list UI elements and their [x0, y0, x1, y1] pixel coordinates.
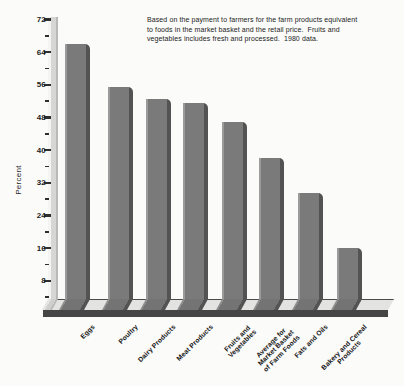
- y-tick-label: 64: [37, 48, 46, 57]
- y-minor-tick: [45, 166, 49, 168]
- x-category-label: Meat Products: [175, 323, 214, 362]
- farm-value-bar-chart: Based on the payment to farmers for the …: [0, 0, 404, 386]
- y-tick-label: 8: [41, 276, 46, 285]
- y-tick-label: 72: [37, 15, 46, 24]
- x-category-label: Dairy Products: [137, 323, 177, 363]
- bar: [183, 103, 208, 299]
- y-minor-tick: [45, 35, 49, 37]
- y-minor-tick: [45, 264, 49, 266]
- y-tick-label: 40: [37, 146, 46, 155]
- y-minor-tick: [45, 68, 49, 70]
- y-axis-title: Percent: [14, 165, 23, 195]
- bar: [259, 158, 284, 299]
- x-category-label-line: Dairy Products: [137, 323, 177, 363]
- y-tick-label: 16: [37, 244, 46, 253]
- y-tick-label: 48: [37, 113, 46, 122]
- y-minor-tick: [45, 231, 49, 233]
- x-category-label: Bakery and CerealProducts: [320, 323, 374, 377]
- x-category-label: Eggs: [79, 323, 96, 340]
- y-minor-tick: [45, 133, 49, 135]
- bar: [146, 99, 171, 299]
- y-tick-label: 32: [37, 178, 46, 187]
- y-axis-column: [48, 17, 58, 299]
- chart-note: Based on the payment to farmers for the …: [147, 15, 404, 44]
- bar: [108, 87, 133, 299]
- chart-note-line: to foods in the market basket and the re…: [147, 25, 404, 35]
- x-category-label-line: Poultry: [117, 323, 139, 345]
- y-tick-label: 24: [37, 211, 46, 220]
- x-category-label: Poultry: [117, 323, 139, 345]
- bar: [65, 44, 90, 299]
- x-category-label-line: Eggs: [79, 323, 96, 340]
- x-category-label: Average forMarket Basketof Farm Foods: [251, 323, 301, 373]
- y-minor-tick: [45, 296, 49, 298]
- base-platform-front: [43, 310, 388, 317]
- chart-note-line: Based on the payment to farmers for the …: [147, 15, 404, 25]
- x-category-label-line: Meat Products: [175, 323, 214, 362]
- y-minor-tick: [45, 198, 49, 200]
- bar: [337, 248, 362, 299]
- bar: [222, 122, 247, 299]
- y-tick-label: 56: [37, 80, 46, 89]
- y-minor-tick: [45, 100, 49, 102]
- bar: [298, 193, 323, 299]
- chart-note-line: vegetables includes fresh and processed.…: [147, 34, 404, 44]
